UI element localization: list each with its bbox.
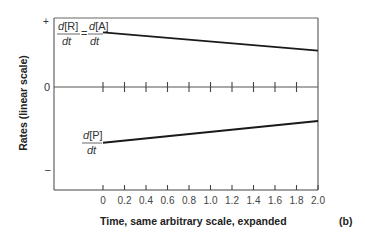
frac-den-2: dt bbox=[90, 35, 100, 47]
x-axis-title: Time, same arbitrary scale, expanded bbox=[100, 215, 287, 227]
series-line-rate-r bbox=[103, 32, 318, 50]
x-tick-label: 0.4 bbox=[139, 195, 153, 206]
x-axis-ticks bbox=[103, 185, 318, 190]
y-tick-plus: + bbox=[43, 16, 49, 27]
series-label-rate-r: d[R] dt = d[A] dt bbox=[57, 20, 109, 47]
y-tick-minus: – bbox=[45, 164, 51, 175]
x-tick-label: 1.8 bbox=[290, 195, 304, 206]
x-tick-labels: 00.20.40.60.81.01.21.41.61.82.0 bbox=[100, 195, 325, 206]
y-tick-zero: 0 bbox=[44, 81, 50, 93]
panel-label: (b) bbox=[339, 215, 352, 227]
x-tick-label: 1.2 bbox=[225, 195, 239, 206]
equals-sign: = bbox=[81, 27, 87, 39]
series-label-rate-p: d[P] dt bbox=[82, 129, 103, 156]
series-line-rate-p bbox=[103, 121, 318, 143]
x-tick-label: 0.8 bbox=[182, 195, 196, 206]
frac-den-p: dt bbox=[87, 144, 97, 156]
x-tick-label: 2.0 bbox=[311, 195, 325, 206]
frac-den-1: dt bbox=[62, 35, 72, 47]
x-tick-label: 0 bbox=[100, 195, 106, 206]
x-tick-label: 1.0 bbox=[204, 195, 218, 206]
x-tick-label: 1.4 bbox=[247, 195, 261, 206]
y-axis-title: Rates (linear scale) bbox=[17, 55, 29, 151]
x-tick-label: 1.6 bbox=[268, 195, 282, 206]
frac-num-1: d[R] bbox=[58, 20, 78, 32]
x-tick-label: 0.2 bbox=[118, 195, 132, 206]
frac-num-2: d[A] bbox=[89, 20, 109, 32]
rate-chart: 00.20.40.60.81.01.21.41.61.82.0 + 0 – Ra… bbox=[0, 0, 365, 235]
frac-num-p: d[P] bbox=[83, 129, 103, 141]
x-tick-label: 0.6 bbox=[161, 195, 175, 206]
